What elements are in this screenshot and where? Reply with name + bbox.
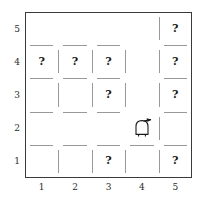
wall-horizontal — [63, 78, 86, 79]
wall-horizontal — [164, 112, 187, 113]
robot-agent[interactable] — [132, 117, 152, 139]
wall-horizontal — [63, 45, 86, 46]
unknown-cell-marker: ? — [102, 89, 116, 101]
y-axis-tick-label: 4 — [8, 57, 20, 67]
y-axis-tick-label: 5 — [8, 24, 20, 34]
wall-horizontal — [30, 78, 53, 79]
unknown-cell-marker: ? — [168, 155, 182, 167]
x-axis-tick-label: 2 — [68, 182, 82, 192]
x-axis-tick-label: 5 — [168, 182, 182, 192]
unknown-cell-marker: ? — [168, 89, 182, 101]
wall-horizontal — [30, 45, 53, 46]
wall-vertical — [92, 150, 93, 173]
wall-vertical — [125, 150, 126, 173]
unknown-cell-marker: ? — [68, 56, 82, 68]
unknown-cell-marker: ? — [168, 23, 182, 35]
y-axis-tick-label: 3 — [8, 90, 20, 100]
wall-horizontal — [97, 45, 120, 46]
x-axis-tick-label: 4 — [135, 182, 149, 192]
wall-vertical — [159, 150, 160, 173]
wall-horizontal — [164, 145, 187, 146]
x-axis-tick-label: 1 — [35, 182, 49, 192]
wall-vertical — [92, 50, 93, 73]
wall-horizontal — [97, 145, 120, 146]
robot-body — [136, 121, 148, 135]
y-axis-tick-label: 1 — [8, 156, 20, 166]
unknown-cell-marker: ? — [102, 155, 116, 167]
wall-vertical — [58, 150, 59, 173]
wall-vertical — [58, 83, 59, 106]
wall-vertical — [159, 50, 160, 73]
robot-gridworld-figure: ????????? 12345 54321 — [0, 0, 204, 210]
wall-vertical — [159, 117, 160, 140]
wall-horizontal — [164, 45, 187, 46]
wall-vertical — [125, 83, 126, 106]
x-axis-tick-label: 3 — [102, 182, 116, 192]
wall-horizontal — [63, 112, 86, 113]
wall-horizontal — [97, 78, 120, 79]
unknown-cell-marker: ? — [168, 56, 182, 68]
wall-horizontal — [130, 145, 153, 146]
wall-vertical — [125, 50, 126, 73]
y-axis-tick-label: 2 — [8, 123, 20, 133]
wall-horizontal — [164, 78, 187, 79]
wall-horizontal — [97, 112, 120, 113]
wall-vertical — [92, 83, 93, 106]
wall-horizontal — [63, 145, 86, 146]
wall-vertical — [58, 50, 59, 73]
wall-horizontal — [30, 145, 53, 146]
unknown-cell-marker: ? — [35, 56, 49, 68]
wall-vertical — [159, 17, 160, 40]
wall-horizontal — [30, 112, 53, 113]
wall-vertical — [159, 83, 160, 106]
unknown-cell-marker: ? — [102, 56, 116, 68]
